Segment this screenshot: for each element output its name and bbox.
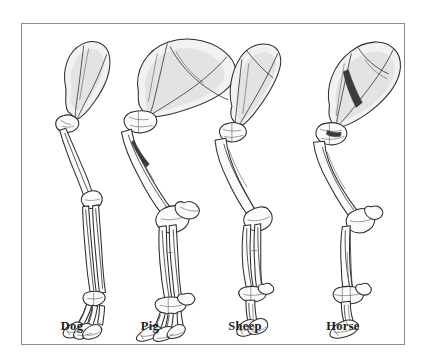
sheep-humerus [215, 138, 257, 217]
pig-scapula [138, 39, 236, 117]
horse-humerus [313, 141, 359, 219]
dog-carpus [83, 291, 105, 306]
pig-humerus [121, 129, 171, 214]
horse-scapula [328, 42, 400, 128]
dog-radius-ulna [83, 205, 106, 295]
pig-radius-ulna [159, 225, 182, 302]
specimen-label-pig: Pig [141, 319, 159, 334]
dog-shoulder-joint [56, 115, 79, 133]
sheep-carpus [239, 283, 274, 302]
sheep-scapula [230, 44, 281, 128]
pig-shoulder-joint [124, 111, 157, 133]
horse-radius [341, 226, 354, 292]
specimen-label-sheep: Sheep [228, 319, 261, 334]
dog-scapula [65, 42, 110, 120]
specimen-horse [313, 42, 400, 338]
specimen-label-horse: Horse [326, 319, 359, 334]
horse-carpus [333, 283, 371, 304]
figure-frame [21, 23, 405, 345]
specimen-pig [121, 39, 235, 341]
specimen-dog [56, 42, 110, 340]
specimen-label-dog: Dog [61, 319, 83, 334]
skeleton-illustration [22, 24, 404, 344]
figure-root: Dog Pig Sheep Horse [0, 0, 429, 362]
sheep-radius-ulna [242, 224, 263, 291]
dog-humerus [60, 128, 93, 199]
